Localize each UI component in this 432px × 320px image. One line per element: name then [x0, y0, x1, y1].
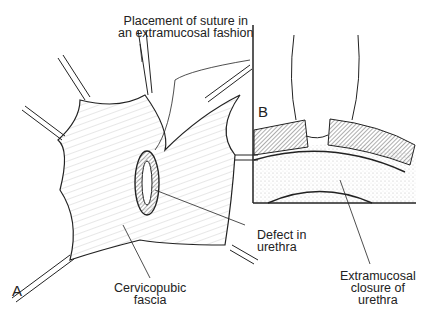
label-suture-placement: Placement of suture in an extramucosal f… [118, 15, 254, 39]
label-defect: Defect in urethra [257, 229, 306, 253]
panel-label-a: A [12, 282, 22, 299]
panel-label-b: B [258, 103, 268, 120]
label-closure: Extramucosal closure of urethra [340, 270, 416, 306]
label-fascia: Cervicopubic fascia [114, 282, 186, 306]
panel-b-drawing [253, 25, 416, 203]
